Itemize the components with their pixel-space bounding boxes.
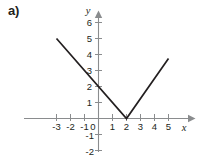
- function-curve: [57, 39, 169, 119]
- y-tick-label-4: 4: [87, 49, 92, 60]
- x-tick-label-3: 3: [138, 121, 143, 132]
- x-axis-label: x: [181, 122, 187, 133]
- x-tick-label-5: 5: [166, 121, 171, 132]
- x-tick-label--3: -3: [52, 121, 60, 132]
- y-tick-label-5: 5: [87, 33, 92, 44]
- panel-label: a): [8, 4, 19, 18]
- x-tick-label-4: 4: [152, 121, 157, 132]
- x-axis-ticks: [57, 114, 169, 121]
- x-tick-label-2: 2: [124, 121, 129, 132]
- y-tick-label-3: 3: [87, 65, 92, 76]
- y-axis-arrow-icon: [95, 11, 102, 19]
- y-tick-label--1: -1: [86, 130, 94, 141]
- y-tick-label-1: 1: [87, 97, 92, 108]
- y-axis-label: y: [85, 5, 91, 16]
- x-tick-label--2: -2: [66, 121, 74, 132]
- x-axis-arrow-icon: [188, 115, 196, 122]
- coordinate-plane-chart: -3 -2 -1 0 1 2 3 4 5 6 5 4 3 2 1 -1 -2 x…: [0, 0, 205, 156]
- y-tick-label--2: -2: [86, 146, 94, 157]
- x-tick-label-1: 1: [110, 121, 115, 132]
- y-tick-label-6: 6: [87, 17, 92, 28]
- figure-panel: a): [0, 0, 205, 156]
- y-tick-label-2: 2: [87, 81, 92, 92]
